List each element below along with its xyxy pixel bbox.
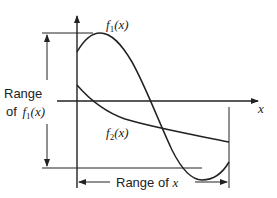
- f2-curve: [77, 85, 229, 142]
- range-f1-label-line1: Range: [4, 86, 42, 101]
- range-x-label: Range of x: [116, 175, 178, 190]
- range-f1-label-line2: of f1(x): [6, 104, 45, 121]
- f1-label: f1(x): [106, 17, 129, 34]
- function-range-diagram: f1(x) f2(x) x Range of f1(x) Range of x: [0, 0, 277, 198]
- f2-label: f2(x): [106, 125, 129, 142]
- x-axis-label: x: [257, 101, 264, 116]
